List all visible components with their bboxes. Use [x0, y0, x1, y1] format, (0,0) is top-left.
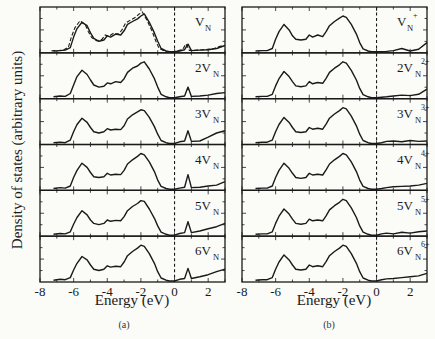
svg-text:N: N	[205, 23, 211, 33]
panel-label: 4V	[397, 152, 414, 167]
svg-text:3+: 3+	[421, 103, 430, 112]
subpanel-2vn2: 2VN2+	[242, 53, 430, 99]
panel-a: VN2VN3VN4VN5VN6VN-8-6-4-202	[35, 7, 225, 299]
panel-label: 6V	[397, 243, 414, 258]
subpanel-3vn: 3VN	[40, 99, 225, 145]
svg-text:N: N	[415, 115, 421, 125]
svg-text:5+: 5+	[421, 195, 430, 204]
x-axis-label-a: Energy (eV)	[95, 292, 169, 309]
subpanel-2vn: 2VN	[40, 53, 225, 99]
subpanel-5vn5: 5VN5+	[242, 190, 430, 236]
x-tick-label: 2	[205, 284, 212, 299]
x-tick-label: -8	[35, 284, 46, 299]
y-axis-label: Density of states (arbitrary units)	[9, 51, 26, 249]
caption-b: (b)	[323, 319, 335, 331]
panel-label: 3V	[397, 106, 414, 121]
x-axis-label-b: Energy (eV)	[297, 292, 371, 309]
svg-text:N: N	[213, 252, 219, 262]
svg-text:N: N	[415, 69, 421, 79]
x-tick-label: -6	[68, 284, 79, 299]
x-tick-label: -8	[237, 284, 248, 299]
subpanel-3vn3: 3VN3+	[242, 99, 430, 145]
panel-label: 2V	[397, 60, 414, 75]
panel-label: 5V	[195, 198, 212, 213]
x-tick-label: -6	[270, 284, 281, 299]
svg-text:N: N	[213, 115, 219, 125]
svg-text:6+: 6+	[421, 240, 430, 249]
svg-text:N: N	[415, 252, 421, 262]
panel-label: 3V	[195, 106, 212, 121]
svg-text:N: N	[213, 69, 219, 79]
svg-text:N: N	[213, 207, 219, 217]
panel-label: V	[195, 14, 205, 29]
dos-figure: Density of states (arbitrary units) VN2V…	[0, 0, 435, 339]
panel-b: VN+2VN2+3VN3+4VN4+5VN5+6VN6+-8-6-4-202	[237, 7, 430, 299]
subpanel-6vn: 6VN	[40, 236, 225, 282]
subpanel-vn: VN+	[242, 7, 427, 53]
panel-label: 4V	[195, 152, 212, 167]
svg-text:+: +	[413, 11, 418, 20]
panel-label: V	[397, 14, 407, 29]
x-tick-label: 2	[407, 284, 414, 299]
subpanel-4vn: 4VN	[40, 145, 225, 191]
caption-a: (a)	[118, 319, 129, 331]
subpanel-5vn: 5VN	[40, 190, 225, 236]
svg-text:4+: 4+	[421, 149, 430, 158]
svg-text:N: N	[415, 161, 421, 171]
subpanel-6vn6: 6VN6+	[242, 236, 430, 282]
svg-text:N: N	[415, 207, 421, 217]
panel-label: 6V	[195, 243, 212, 258]
svg-text:2+: 2+	[421, 57, 430, 66]
subpanel-vn: VN	[40, 7, 225, 53]
x-tick-label: 0	[171, 284, 178, 299]
svg-text:N: N	[213, 161, 219, 171]
subpanel-4vn4: 4VN4+	[242, 145, 430, 191]
x-tick-label: 0	[373, 284, 380, 299]
svg-text:N: N	[407, 23, 413, 33]
panel-label: 5V	[397, 198, 414, 213]
panel-label: 2V	[195, 60, 212, 75]
